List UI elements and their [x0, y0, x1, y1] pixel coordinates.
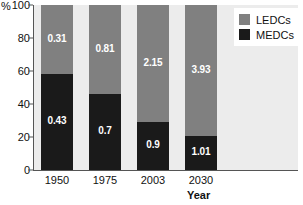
bar-label-medcs-2003: 0.9 — [137, 139, 169, 150]
legend-label-medcs: MEDCs — [256, 29, 294, 41]
legend-item-ledcs[interactable]: LEDCs — [239, 12, 294, 27]
bar-group-2003[interactable]: 2.150.9 — [137, 5, 169, 170]
bar-segment-ledcs-1975[interactable]: 0.81 — [89, 5, 121, 94]
x-tick-label-1975: 1975 — [82, 174, 128, 186]
x-tick-label-2003: 2003 — [130, 174, 176, 186]
legend-swatch-medcs — [239, 29, 250, 40]
y-tick-label-0: 0 — [4, 164, 30, 176]
bar-label-medcs-1975: 0.7 — [89, 125, 121, 136]
bar-label-ledcs-1950: 0.31 — [41, 33, 73, 44]
bar-segment-medcs-1975[interactable]: 0.7 — [89, 94, 121, 170]
bar-segment-medcs-2003[interactable]: 0.9 — [137, 122, 169, 170]
legend-swatch-ledcs — [239, 14, 250, 25]
chart-legend: LEDCsMEDCs — [234, 8, 300, 46]
bar-label-medcs-1950: 0.43 — [41, 115, 73, 126]
x-tick-label-1950: 1950 — [34, 174, 80, 186]
y-tick-label-100: 100 — [4, 0, 30, 11]
bar-segment-ledcs-1950[interactable]: 0.31 — [41, 5, 73, 74]
bar-group-2030[interactable]: 3.931.01 — [185, 5, 217, 170]
bar-label-medcs-2030: 1.01 — [185, 146, 217, 157]
y-tick-label-60: 60 — [4, 65, 30, 77]
legend-label-ledcs: LEDCs — [256, 14, 291, 26]
bar-group-1975[interactable]: 0.810.7 — [89, 5, 121, 170]
stacked-bar-chart: % 100806040200 0.310.430.810.72.150.93.9… — [0, 0, 303, 205]
bar-segment-ledcs-2030[interactable]: 3.93 — [185, 5, 217, 136]
y-tick-label-80: 80 — [4, 32, 30, 44]
bar-label-ledcs-2003: 2.15 — [137, 57, 169, 68]
bar-group-1950[interactable]: 0.310.43 — [41, 5, 73, 170]
x-axis-title: Year — [187, 189, 210, 201]
legend-item-medcs[interactable]: MEDCs — [239, 27, 294, 42]
bar-segment-medcs-2030[interactable]: 1.01 — [185, 136, 217, 170]
x-axis-line — [33, 170, 298, 171]
y-axis: 100806040200 — [0, 0, 30, 205]
bar-label-ledcs-2030: 3.93 — [185, 64, 217, 75]
y-tick-label-40: 40 — [4, 98, 30, 110]
bar-segment-ledcs-2003[interactable]: 2.15 — [137, 5, 169, 122]
y-tick-label-20: 20 — [4, 131, 30, 143]
x-tick-label-2030: 2030 — [178, 174, 224, 186]
bar-label-ledcs-1975: 0.81 — [89, 43, 121, 54]
bar-segment-medcs-1950[interactable]: 0.43 — [41, 74, 73, 170]
